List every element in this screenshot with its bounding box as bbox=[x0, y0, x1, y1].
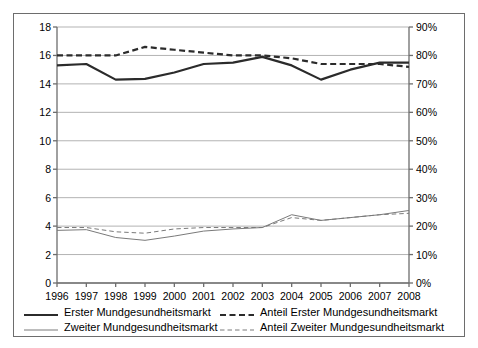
x-axis-label: 1999 bbox=[129, 291, 161, 302]
y-axis-left-label: 8 bbox=[17, 164, 51, 175]
y-axis-right-label: 20% bbox=[416, 221, 460, 232]
legend-label: Anteil Erster Mundgesundheitsmarkt bbox=[260, 307, 437, 318]
y-axis-right-label: 70% bbox=[416, 79, 460, 90]
x-axis-label: 2008 bbox=[393, 291, 425, 302]
legend-swatch-dashed-thick bbox=[220, 307, 254, 319]
legend-entry-anteil-zweiter: Anteil Zweiter Mundgesundheitsmarkt bbox=[220, 322, 454, 334]
legend-row: Zweiter Mundgesundheitsmarkt Anteil Zwei… bbox=[24, 320, 454, 335]
legend-entry-zweiter: Zweiter Mundgesundheitsmarkt bbox=[24, 322, 220, 334]
y-axis-left-label: 10 bbox=[17, 136, 51, 147]
legend-swatch-dashed-thin bbox=[220, 322, 254, 334]
y-axis-left-label: 6 bbox=[17, 193, 51, 204]
plot-area bbox=[14, 14, 463, 335]
y-axis-right-label: 0% bbox=[416, 278, 460, 289]
y-axis-right-label: 90% bbox=[416, 22, 460, 33]
y-axis-left-label: 16 bbox=[17, 50, 51, 61]
chart-frame: 024681012141618 0%10%20%30%40%50%60%70%8… bbox=[13, 13, 465, 337]
x-axis-label: 1996 bbox=[41, 291, 73, 302]
y-axis-right-label: 80% bbox=[416, 50, 460, 61]
y-axis-left-label: 2 bbox=[17, 250, 51, 261]
legend-row: Erster Mundgesundheitsmarkt Anteil Erste… bbox=[24, 305, 454, 320]
y-axis-left-label: 18 bbox=[17, 22, 51, 33]
y-axis-right-label: 40% bbox=[416, 164, 460, 175]
y-axis-left-label: 4 bbox=[17, 221, 51, 232]
legend-label: Zweiter Mundgesundheitsmarkt bbox=[64, 322, 217, 333]
y-axis-right-label: 30% bbox=[416, 193, 460, 204]
x-axis-label: 2005 bbox=[305, 291, 337, 302]
y-axis-left-label: 12 bbox=[17, 107, 51, 118]
legend-swatch-solid-thick bbox=[24, 307, 58, 319]
series-line-0 bbox=[57, 57, 409, 80]
legend-label: Anteil Zweiter Mundgesundheitsmarkt bbox=[260, 322, 444, 333]
x-axis-label: 2002 bbox=[217, 291, 249, 302]
x-axis-label: 2001 bbox=[188, 291, 220, 302]
series-line-2 bbox=[57, 47, 409, 67]
series-line-3 bbox=[57, 213, 409, 233]
y-axis-right-label: 60% bbox=[416, 107, 460, 118]
y-axis-right-label: 50% bbox=[416, 136, 460, 147]
legend-entry-anteil-erster: Anteil Erster Mundgesundheitsmarkt bbox=[220, 307, 454, 319]
chart-figure: 024681012141618 0%10%20%30%40%50%60%70%8… bbox=[0, 0, 478, 348]
x-axis-label: 2004 bbox=[276, 291, 308, 302]
x-axis-label: 1997 bbox=[70, 291, 102, 302]
x-axis-label: 2003 bbox=[246, 291, 278, 302]
chart-legend: Erster Mundgesundheitsmarkt Anteil Erste… bbox=[24, 305, 454, 335]
y-axis-left-label: 0 bbox=[17, 278, 51, 289]
y-axis-left-label: 14 bbox=[17, 79, 51, 90]
x-axis-label: 2006 bbox=[334, 291, 366, 302]
y-axis-right-label: 10% bbox=[416, 250, 460, 261]
x-axis-label: 1998 bbox=[100, 291, 132, 302]
legend-label: Erster Mundgesundheitsmarkt bbox=[64, 307, 211, 318]
x-axis-label: 2000 bbox=[158, 291, 190, 302]
legend-entry-erster: Erster Mundgesundheitsmarkt bbox=[24, 307, 220, 319]
legend-swatch-solid-thin bbox=[24, 322, 58, 334]
x-axis-label: 2007 bbox=[364, 291, 396, 302]
series-line-1 bbox=[57, 210, 409, 240]
